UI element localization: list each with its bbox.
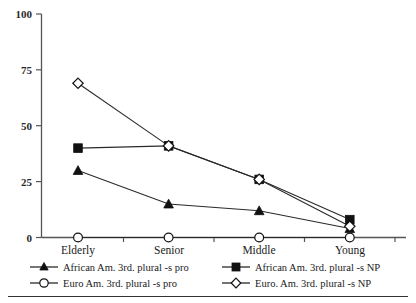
legend-label-euro-np: Euro. Am. 3rd. plural -s NP (255, 278, 371, 289)
circle-open-datapoint (74, 233, 83, 242)
triangle-filled-datapoint (164, 199, 174, 208)
diamond-open-datapoint (73, 78, 83, 88)
x-category-label-young: Young (335, 244, 365, 257)
legend-item-african-pro[interactable]: African Am. 3rd. plural -s pro (30, 262, 189, 273)
series-line-3 (78, 83, 350, 226)
legend-label-euro-pro: Euro Am. 3rd. plural -s pro (63, 278, 177, 289)
circle-open-datapoint (345, 233, 354, 242)
x-category-label-senior: Senior (154, 244, 184, 256)
y-tick-label-75: 75 (21, 64, 33, 76)
legend-item-african-np[interactable]: African Am. 3rd. plural -s NP (222, 262, 380, 273)
series-line-1 (78, 146, 350, 220)
chart-container: 100 75 50 25 0 Elderly Senior Middle You… (0, 0, 416, 303)
circle-open-datapoint (255, 233, 264, 242)
legend: African Am. 3rd. plural -s pro African A… (30, 262, 380, 289)
triangle-filled-datapoint (73, 166, 83, 175)
square-filled-icon (232, 263, 240, 271)
triangle-filled-icon (40, 263, 48, 271)
x-category-label-elderly: Elderly (61, 244, 95, 257)
x-category-label-middle: Middle (242, 244, 275, 256)
legend-item-euro-np[interactable]: Euro. Am. 3rd. plural -s NP (222, 278, 371, 289)
line-chart: 100 75 50 25 0 Elderly Senior Middle You… (0, 0, 416, 303)
series-line-0 (78, 170, 350, 228)
series-markers-0 (73, 166, 354, 233)
circle-open-datapoint (164, 233, 173, 242)
series-markers-3 (73, 78, 355, 231)
legend-item-euro-pro[interactable]: Euro Am. 3rd. plural -s pro (30, 278, 177, 289)
series-3 (78, 83, 350, 226)
y-tick-label-0: 0 (27, 232, 33, 244)
legend-label-african-np: African Am. 3rd. plural -s NP (255, 262, 380, 273)
y-tick-label-50: 50 (21, 120, 33, 132)
legend-label-african-pro: African Am. 3rd. plural -s pro (63, 262, 189, 273)
diamond-open-icon (231, 278, 241, 288)
series-markers-1 (74, 142, 354, 224)
circle-open-icon (40, 279, 48, 287)
series-layer (73, 78, 355, 242)
y-tick-label-100: 100 (16, 8, 33, 20)
y-tick-label-25: 25 (21, 176, 33, 188)
y-axis: 100 75 50 25 0 (16, 8, 42, 244)
square-filled-datapoint (74, 144, 83, 153)
series-1 (78, 146, 350, 220)
series-0 (78, 170, 350, 228)
